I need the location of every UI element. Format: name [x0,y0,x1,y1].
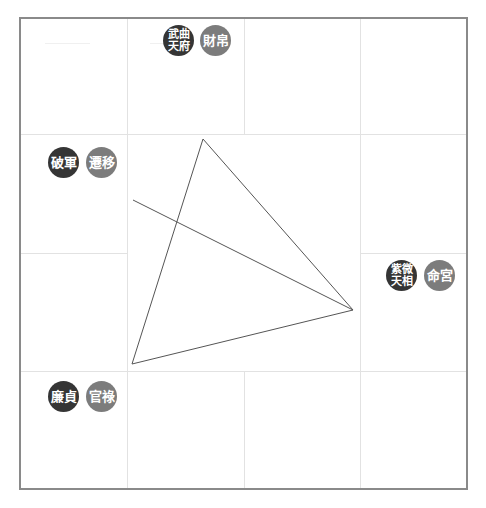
palace-label: 官祿 [89,390,115,403]
palace-badge-ming: 命宮 [424,260,455,291]
palace-label: 遷移 [89,156,115,169]
star-badge-ziwei-tianxiang: 紫微 天相 [386,260,417,291]
palace-label: 財帛 [203,34,229,47]
palace-badge-caibo: 財帛 [200,25,231,56]
star-badge-pojun: 破軍 [48,147,79,178]
palace-label: 命宮 [427,269,453,282]
star-badge-wuqu-tianfu: 武曲 天府 [163,25,194,56]
star-label: 紫微 [391,264,413,276]
star-label: 天府 [168,41,190,53]
star-label: 武曲 [168,29,190,41]
star-label: 天相 [391,276,413,288]
palace-badge-guanlu: 官祿 [86,381,117,412]
sanfang-triangle [0,0,486,508]
star-label: 廉貞 [51,390,77,403]
star-badge-lianzhen: 廉貞 [48,381,79,412]
palace-badge-qianyi: 遷移 [86,147,117,178]
star-label: 破軍 [51,156,77,169]
